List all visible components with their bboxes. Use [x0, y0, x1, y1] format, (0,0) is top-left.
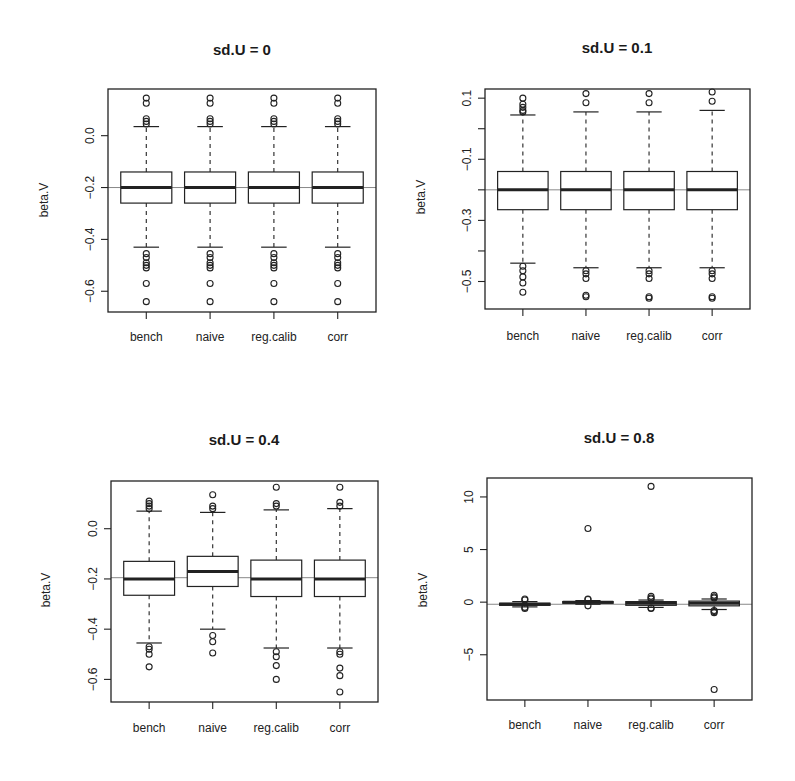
- plot-area: benchnaivereg.calibcorr0.0−0.2−0.4−0.6: [86, 481, 378, 735]
- outlier-point: [709, 98, 715, 104]
- outlier-point: [520, 280, 526, 286]
- outlier-point: [273, 676, 279, 682]
- y-tick-label: −0.2: [83, 175, 97, 199]
- outlier-point: [646, 100, 652, 106]
- box-bench: [498, 95, 548, 295]
- y-axis-label: beta.V: [414, 180, 428, 215]
- y-axis-label: beta.V: [416, 573, 430, 608]
- box-naive: [561, 91, 611, 300]
- y-tick-label: 5: [462, 546, 476, 553]
- box-reg.calib: [248, 95, 299, 305]
- y-tick-label: 0: [462, 598, 476, 605]
- box-naive: [185, 95, 236, 305]
- outlier-point: [335, 280, 341, 286]
- x-tick-label: corr: [327, 330, 348, 344]
- x-tick-label: naive: [196, 330, 225, 344]
- y-tick-label: −0.6: [83, 279, 97, 303]
- box-reg.calib: [251, 484, 302, 682]
- y-tick-label: −0.4: [86, 617, 100, 641]
- panel-sd-u-0.4: sd.U = 0.4 beta.V benchnaivereg.calibcor…: [39, 431, 378, 735]
- y-tick-label: 0.1: [460, 90, 474, 107]
- outlier-point: [143, 280, 149, 286]
- outlier-point: [273, 663, 279, 669]
- outlier-point: [335, 299, 341, 305]
- panel-sd-u-0.1: sd.U = 0.1 beta.V benchnaivereg.calibcor…: [414, 39, 750, 343]
- y-axis-label: beta.V: [39, 573, 53, 608]
- x-tick-label: corr: [704, 718, 725, 732]
- outlier-point: [520, 274, 526, 280]
- outlier-point: [143, 299, 149, 305]
- x-tick-label: corr: [702, 329, 723, 343]
- y-tick-label: −0.5: [460, 269, 474, 293]
- x-tick-label: corr: [330, 721, 351, 735]
- x-tick-label: naive: [572, 329, 601, 343]
- box-bench: [121, 95, 172, 305]
- box-naive: [187, 492, 238, 656]
- y-tick-label: 10: [462, 490, 476, 504]
- y-tick-label: −0.6: [86, 667, 100, 691]
- outlier-point: [337, 665, 343, 671]
- outlier-point: [271, 299, 277, 305]
- plot-frame: [487, 478, 752, 700]
- x-tick-label: reg.calib: [254, 721, 300, 735]
- panel-title: sd.U = 0: [213, 41, 271, 58]
- outlier-point: [337, 673, 343, 679]
- box-reg.calib: [624, 91, 674, 302]
- x-tick-label: bench: [133, 721, 166, 735]
- plot-area: benchnaivereg.calibcorr0.0−0.2−0.4−0.6: [83, 89, 376, 344]
- x-tick-label: reg.calib: [628, 718, 674, 732]
- outlier-point: [210, 632, 216, 638]
- y-tick-label: −5: [462, 648, 476, 662]
- box-naive: [563, 526, 613, 609]
- outlier-point: [648, 483, 654, 489]
- outlier-point: [583, 100, 589, 106]
- boxplot-figure: sd.U = 0 beta.V benchnaivereg.calibcorr0…: [0, 0, 795, 781]
- outlier-point: [210, 639, 216, 645]
- panel-title: sd.U = 0.8: [584, 429, 654, 446]
- box-corr: [314, 484, 365, 695]
- panel-sd-u-0: sd.U = 0 beta.V benchnaivereg.calibcorr0…: [37, 41, 376, 344]
- y-axis-label: beta.V: [37, 183, 51, 218]
- outlier-point: [337, 689, 343, 695]
- x-tick-label: reg.calib: [251, 330, 297, 344]
- panel-title: sd.U = 0.4: [209, 431, 280, 448]
- outlier-point: [146, 664, 152, 670]
- box-corr: [687, 89, 737, 301]
- box-bench: [124, 498, 175, 670]
- outlier-point: [520, 95, 526, 101]
- y-tick-label: −0.1: [460, 147, 474, 171]
- y-tick-label: −0.3: [460, 208, 474, 232]
- x-tick-label: naive: [574, 718, 603, 732]
- outlier-point: [711, 686, 717, 692]
- x-tick-label: reg.calib: [626, 329, 672, 343]
- outlier-point: [271, 280, 277, 286]
- x-tick-label: naive: [198, 721, 227, 735]
- outlier-point: [646, 91, 652, 97]
- outlier-point: [207, 280, 213, 286]
- outlier-point: [583, 91, 589, 97]
- box-corr: [689, 592, 739, 692]
- outlier-point: [210, 492, 216, 498]
- y-tick-label: 0.0: [86, 520, 100, 537]
- outlier-point: [273, 484, 279, 490]
- box-reg.calib: [626, 483, 676, 611]
- plot-area: benchnaivereg.calibcorr0.1−0.1−0.3−0.5: [460, 89, 750, 343]
- y-tick-label: 0.0: [83, 127, 97, 144]
- x-tick-label: bench: [507, 329, 540, 343]
- box-corr: [312, 95, 363, 305]
- y-tick-label: −0.4: [83, 227, 97, 251]
- x-tick-label: bench: [130, 330, 163, 344]
- outlier-point: [709, 89, 715, 95]
- panel-title: sd.U = 0.1: [582, 39, 652, 56]
- panel-sd-u-0.8: sd.U = 0.8 beta.V benchnaivereg.calibcor…: [416, 429, 752, 732]
- outlier-point: [210, 650, 216, 656]
- x-tick-label: bench: [509, 718, 542, 732]
- box-bench: [500, 596, 550, 611]
- outlier-point: [337, 484, 343, 490]
- y-tick-label: −0.2: [86, 567, 100, 591]
- outlier-point: [520, 289, 526, 295]
- outlier-point: [585, 526, 591, 532]
- outlier-point: [207, 299, 213, 305]
- plot-area: benchnaivereg.calibcorr1050−5: [462, 478, 752, 732]
